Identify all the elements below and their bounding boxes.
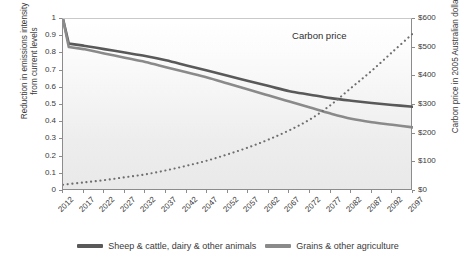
left-tick-label: 0.4 bbox=[26, 117, 56, 125]
chart-legend: Sheep & cattle, dairy & other animals Gr… bbox=[0, 238, 476, 254]
left-tick-label: 0 bbox=[26, 186, 56, 194]
right-tick-label: $0 bbox=[418, 186, 452, 194]
x-tick-label: 2067 bbox=[277, 195, 302, 220]
x-tick-label: 2047 bbox=[195, 195, 220, 220]
series-line-grains bbox=[63, 19, 413, 127]
legend-item-grains[interactable]: Grains & other agriculture bbox=[265, 241, 399, 251]
x-tick-label: 2032 bbox=[133, 195, 158, 220]
left-tick-label: 0.9 bbox=[26, 31, 56, 39]
left-tick-label: 0.8 bbox=[26, 48, 56, 56]
x-tick-label: 2012 bbox=[51, 195, 76, 220]
left-tick-label: 0.1 bbox=[26, 169, 56, 177]
left-tick-label: 0.3 bbox=[26, 134, 56, 142]
annotation-carbon-price: Carbon price bbox=[292, 30, 346, 41]
right-tick-label: $600 bbox=[418, 14, 452, 22]
x-tick-label: 2092 bbox=[380, 195, 405, 220]
legend-label-grains: Grains & other agriculture bbox=[296, 241, 399, 251]
right-tick-label: $500 bbox=[418, 43, 452, 51]
x-tick-label: 2072 bbox=[298, 195, 323, 220]
left-tick-label: 1 bbox=[26, 14, 56, 22]
x-tick-label: 2087 bbox=[359, 195, 384, 220]
x-tick-label: 2057 bbox=[236, 195, 261, 220]
legend-label-animals: Sheep & cattle, dairy & other animals bbox=[108, 241, 256, 251]
x-tick-label: 2042 bbox=[174, 195, 199, 220]
x-tick-label: 2037 bbox=[154, 195, 179, 220]
plot-svg bbox=[63, 19, 413, 191]
left-tick-label: 0.2 bbox=[26, 152, 56, 160]
right-tick-label: $100 bbox=[418, 157, 452, 165]
chart-title-clipped bbox=[0, 0, 476, 6]
left-tick-label: 0.5 bbox=[26, 100, 56, 108]
left-tick-label: 0.6 bbox=[26, 83, 56, 91]
legend-swatch-animals bbox=[77, 244, 103, 248]
series-line-animals bbox=[63, 19, 413, 107]
right-tick-label: $200 bbox=[418, 129, 452, 137]
legend-swatch-grains bbox=[265, 244, 291, 248]
right-axis-title: Carbon price in 2005 Australian dollars bbox=[450, 0, 464, 148]
x-tick-label: 2097 bbox=[401, 195, 426, 220]
x-tick-label: 2062 bbox=[256, 195, 281, 220]
x-tick-label: 2027 bbox=[112, 195, 137, 220]
left-tick-label: 0.7 bbox=[26, 66, 56, 74]
right-tick-label: $300 bbox=[418, 100, 452, 108]
x-tick-label: 2052 bbox=[215, 195, 240, 220]
plot-area bbox=[62, 18, 412, 190]
right-tick-label: $400 bbox=[418, 71, 452, 79]
x-tick-label: 2022 bbox=[92, 195, 117, 220]
legend-item-animals[interactable]: Sheep & cattle, dairy & other animals bbox=[77, 241, 256, 251]
x-tick-label: 2017 bbox=[71, 195, 96, 220]
chart-root: Reduction in emissions intensity from cu… bbox=[0, 0, 476, 262]
x-tick-label: 2082 bbox=[339, 195, 364, 220]
x-tick-label: 2077 bbox=[318, 195, 343, 220]
